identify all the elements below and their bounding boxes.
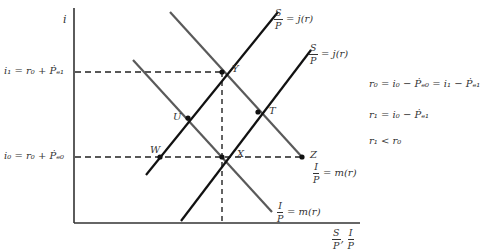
supply-curve-right-label: SP = j(r) (309, 43, 348, 65)
point-W-label: W (150, 145, 160, 155)
x-label-frac-i: I P (348, 228, 354, 250)
point-Y-label: Y (232, 64, 239, 74)
supply-curve-left-label: SP = j(r) (274, 8, 313, 30)
point-U-label: U (173, 112, 181, 122)
i0-level-label: i₀ = r₀ + Ṗₑ₀ (4, 151, 64, 161)
i1-level-label: i₁ = r₀ + Ṗₑ₁ (4, 66, 64, 76)
y-axis-label: i (63, 14, 67, 25)
demand-curve-lower-label: IP = m(r) (277, 201, 321, 223)
point-X-dot (219, 154, 224, 159)
point-T-label: T (269, 106, 276, 116)
equation-r0: r₀ = i₀ − Ṗₑ₀ = i₁ − Ṗₑ₁ (369, 79, 480, 89)
demand-curve-lower (133, 60, 272, 212)
equation-inequality: r₁ < r₀ (369, 136, 401, 146)
point-Y-dot (219, 69, 224, 74)
supply-curve-right (181, 50, 311, 221)
point-Z-dot (299, 154, 304, 159)
equation-r1: r₁ = i₀ − Ṗₑ₁ (369, 110, 429, 120)
point-U-dot (185, 115, 190, 120)
point-X-label: X (237, 149, 244, 159)
x-label-frac-s: S P (332, 228, 341, 250)
point-T-dot (255, 109, 260, 114)
demand-curve-upper (170, 12, 302, 157)
point-W-dot (157, 154, 162, 159)
point-Z-label: Z (310, 150, 317, 160)
diagram-canvas (0, 0, 486, 250)
demand-curve-upper-label: IP = m(r) (313, 162, 357, 184)
x-axis-label: S P , I P (332, 228, 354, 250)
supply-curve-left (146, 12, 278, 175)
